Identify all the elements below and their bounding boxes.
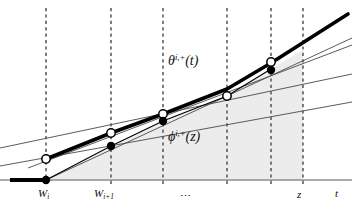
- x-tick-label-w-i-plus-1: Wi+1: [94, 187, 114, 201]
- theta-function-label: θi,+(t): [168, 52, 198, 69]
- phi-argument: (z): [185, 129, 200, 144]
- theta-argument: (t): [185, 53, 198, 68]
- filled-marker-w-i-plus-1: [107, 142, 115, 150]
- x-tick-label-w-i: Wi: [38, 187, 49, 201]
- x-tick-label-ellipsis: ⋯: [180, 190, 192, 203]
- open-marker-w-i-plus-1: [107, 129, 115, 137]
- theta-symbol: θ: [168, 53, 175, 68]
- w-i-plus-1-main: W: [94, 187, 103, 199]
- plot-canvas: [0, 0, 354, 217]
- w-i-main: W: [38, 187, 47, 199]
- w-i-plus-1-subscript: i+1: [103, 192, 114, 201]
- figure-container: θi,+(t) ϕi,+(z) Wi Wi+1 ⋯ z t: [0, 0, 354, 217]
- shaded-area-under-phi: [46, 50, 303, 180]
- x-tick-label-z: z: [297, 188, 301, 200]
- filled-marker-w-i: [42, 176, 50, 184]
- x-axis-name-t: t: [335, 187, 338, 199]
- theta-superscript: i,+: [175, 52, 185, 62]
- w-i-subscript: i: [47, 192, 49, 201]
- filled-marker-z: [267, 66, 275, 74]
- phi-superscript: i,+: [175, 128, 185, 138]
- open-marker-w-i: [42, 155, 50, 163]
- phi-function-label: ϕi,+(z): [168, 128, 200, 145]
- filled-marker-mid-1: [159, 117, 167, 125]
- open-marker-mid-2: [223, 92, 231, 100]
- open-marker-z: [267, 58, 275, 66]
